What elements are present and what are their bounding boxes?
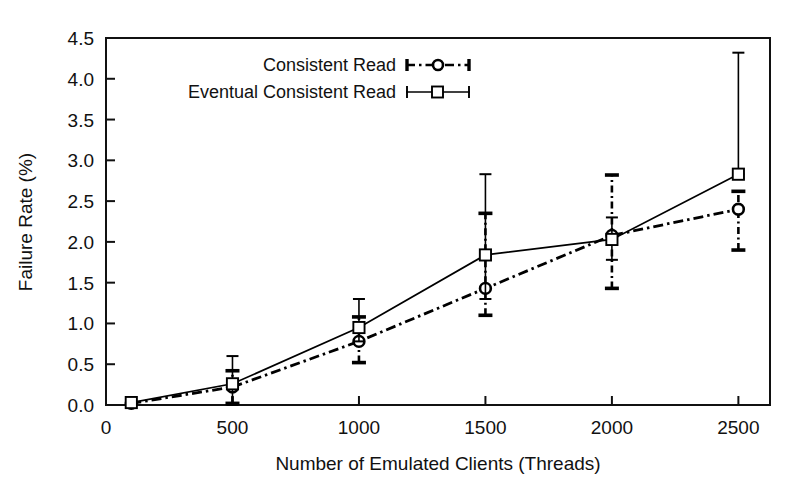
data-point-circle	[733, 204, 744, 215]
data-point-square	[227, 378, 238, 389]
y-tick-label: 4.0	[68, 69, 94, 90]
series-consistent-read	[126, 175, 745, 409]
data-point-square	[733, 169, 744, 180]
data-point-square	[606, 234, 617, 245]
x-tick-label: 2000	[591, 417, 633, 438]
y-tick-label: 0.0	[68, 395, 94, 416]
data-point-square	[480, 249, 491, 260]
failure-rate-line-chart: 0.00.51.01.52.02.53.03.54.04.5 050010001…	[0, 0, 810, 483]
data-series-layer	[126, 53, 746, 409]
y-tick-label: 3.5	[68, 110, 94, 131]
y-tick-label: 0.5	[68, 354, 94, 375]
y-tick-label: 2.0	[68, 232, 94, 253]
series-line	[131, 174, 738, 402]
legend-label-consistent-read: Consistent Read	[263, 55, 396, 75]
legend-swatch-eventual-consistent-read	[406, 86, 470, 98]
data-point-square	[353, 322, 364, 333]
y-tick-label: 4.5	[68, 28, 94, 49]
chart-figure: 0.00.51.01.52.02.53.03.54.04.5 050010001…	[0, 0, 810, 483]
x-tick-label: 0	[101, 417, 112, 438]
y-axis: 0.00.51.01.52.02.53.03.54.04.5	[68, 28, 115, 416]
y-axis-title: Failure Rate (%)	[15, 153, 36, 291]
x-axis: 05001000150020002500	[101, 396, 760, 438]
series-line	[131, 209, 738, 403]
legend: Consistent Read Eventual Consistent Read	[188, 55, 470, 102]
data-point-square	[126, 397, 137, 408]
series-eventual-consistent-read	[126, 53, 745, 408]
x-tick-label: 1000	[338, 417, 380, 438]
y-tick-label: 1.5	[68, 273, 94, 294]
y-tick-label: 2.5	[68, 191, 94, 212]
y-tick-label: 3.0	[68, 150, 94, 171]
x-axis-title: Number of Emulated Clients (Threads)	[275, 453, 600, 474]
y-tick-label: 1.0	[68, 313, 94, 334]
legend-swatch-consistent-read	[406, 59, 470, 71]
x-tick-label: 1500	[464, 417, 506, 438]
x-tick-label: 2500	[717, 417, 759, 438]
legend-label-eventual-consistent-read: Eventual Consistent Read	[188, 82, 396, 102]
x-tick-label: 500	[217, 417, 249, 438]
